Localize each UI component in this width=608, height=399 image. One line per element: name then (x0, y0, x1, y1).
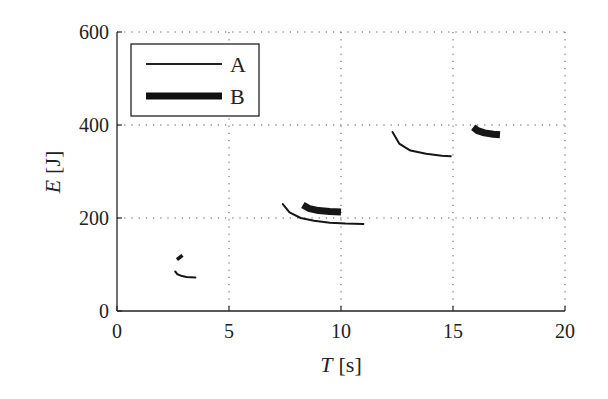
series-b-segment (303, 205, 341, 212)
series-a-segment (175, 272, 195, 278)
legend-label-a: A (230, 52, 246, 77)
x-tick-label: 15 (443, 320, 463, 342)
series-a-segment (393, 132, 451, 156)
series-b-segment (473, 127, 500, 135)
x-tick-labels: 05101520 (112, 320, 575, 342)
y-tick-label: 400 (79, 114, 109, 136)
y-tick-label: 600 (79, 21, 109, 43)
y-tick-labels: 0200400600 (79, 21, 109, 322)
legend: A B (131, 44, 259, 116)
y-axis-label: E[J] (40, 151, 65, 195)
x-axis-label: T[s] (320, 352, 361, 377)
x-tick-label: 5 (224, 320, 234, 342)
x-tick-label: 20 (555, 320, 575, 342)
x-tick-label: 10 (331, 320, 351, 342)
series-b-segment (179, 256, 181, 259)
energy-vs-time-chart: 05101520 0200400600 T[s] E[J] A B (0, 0, 608, 399)
y-tick-label: 0 (99, 300, 109, 322)
y-tick-label: 200 (79, 207, 109, 229)
legend-label-b: B (230, 84, 245, 109)
plot-series (175, 127, 500, 277)
x-tick-label: 0 (112, 320, 122, 342)
